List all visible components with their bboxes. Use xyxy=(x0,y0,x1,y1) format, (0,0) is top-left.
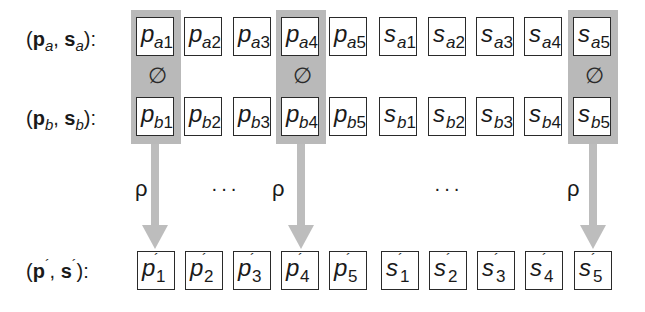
cell-b-10: sb5 xyxy=(573,97,611,136)
row-label-result: (p´, s´): xyxy=(26,260,89,283)
cell-a-2: pa2 xyxy=(184,17,222,56)
arrow-shaft-4 xyxy=(297,144,305,226)
cell-result-9: s´4 xyxy=(525,251,563,290)
rho-label-10: ρ xyxy=(567,176,580,202)
cell-a-10: sa5 xyxy=(573,17,611,56)
ellipsis-1: ··· xyxy=(211,177,240,200)
cell-result-7: s´2 xyxy=(429,251,467,290)
cell-a-7: sa2 xyxy=(428,17,466,56)
cell-b-1: pb1 xyxy=(136,97,174,136)
cell-a-9: sa4 xyxy=(524,17,562,56)
cell-a-5: pa5 xyxy=(329,17,367,56)
arrow-head-4 xyxy=(288,225,314,249)
cell-b-6: sb1 xyxy=(379,97,417,136)
cell-result-1: p´1 xyxy=(137,251,175,290)
rho-label-4: ρ xyxy=(272,176,285,202)
row-label-a: (pa, sa): xyxy=(26,28,96,51)
cell-a-6: sa1 xyxy=(379,17,417,56)
cell-result-6: s´1 xyxy=(381,251,419,290)
empty-set-symbol-10: ∅ xyxy=(585,63,604,89)
cell-b-5: pb5 xyxy=(329,97,367,136)
cell-b-2: pb2 xyxy=(184,97,222,136)
arrow-head-1 xyxy=(142,225,168,249)
cell-b-7: sb2 xyxy=(428,97,466,136)
cell-b-9: sb4 xyxy=(524,97,562,136)
cell-b-4: pb4 xyxy=(281,97,319,136)
row-label-b: (pb, sb): xyxy=(26,107,96,130)
empty-set-symbol-4: ∅ xyxy=(293,63,312,89)
ellipsis-2: ··· xyxy=(434,177,463,200)
cell-a-1: pa1 xyxy=(136,17,174,56)
cell-b-3: pb3 xyxy=(233,97,271,136)
rho-label-1: ρ xyxy=(135,176,148,202)
cell-result-2: p´2 xyxy=(185,251,223,290)
cell-a-8: sa3 xyxy=(476,17,514,56)
empty-set-symbol-1: ∅ xyxy=(148,63,167,89)
arrow-shaft-1 xyxy=(151,144,159,226)
cell-a-4: pa4 xyxy=(281,17,319,56)
cell-result-5: p´5 xyxy=(329,251,367,290)
cell-result-3: p´3 xyxy=(233,251,271,290)
cell-result-4: p´4 xyxy=(281,251,319,290)
arrow-head-10 xyxy=(580,225,606,249)
cell-result-8: s´3 xyxy=(477,251,515,290)
arrow-shaft-10 xyxy=(589,144,597,226)
cell-a-3: pa3 xyxy=(233,17,271,56)
cell-b-8: sb3 xyxy=(476,97,514,136)
cell-result-10: s´5 xyxy=(574,251,612,290)
